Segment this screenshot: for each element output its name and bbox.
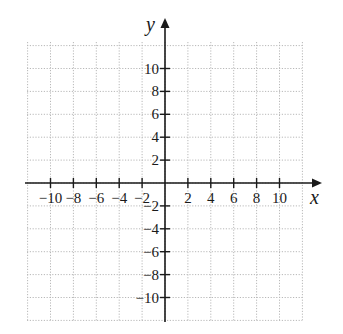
y-axis-arrow-icon bbox=[161, 18, 170, 28]
y-tick-label: −4 bbox=[143, 221, 159, 237]
y-tick-label: −10 bbox=[136, 290, 159, 306]
x-tick-labels: −10−8−6−4−2246810 bbox=[39, 190, 287, 206]
x-tick-label: 4 bbox=[207, 190, 215, 206]
y-tick-label: −8 bbox=[143, 267, 159, 283]
y-tick-label: 2 bbox=[152, 152, 160, 168]
x-tick-label: 10 bbox=[272, 190, 287, 206]
coordinate-plane: −10−8−6−4−2246810 −10−8−6−4−2246810 x y bbox=[0, 0, 343, 334]
y-tick-label: −6 bbox=[143, 244, 159, 260]
axes bbox=[25, 18, 322, 322]
x-tick-label: −8 bbox=[65, 190, 81, 206]
x-tick-label: 6 bbox=[230, 190, 238, 206]
x-tick-label: −6 bbox=[88, 190, 104, 206]
y-tick-label: 4 bbox=[152, 129, 160, 145]
y-tick-label: 8 bbox=[152, 83, 160, 99]
x-tick-label: 8 bbox=[253, 190, 261, 206]
y-tick-label: 6 bbox=[152, 106, 160, 122]
y-tick-label: −2 bbox=[143, 198, 159, 214]
x-axis-label: x bbox=[309, 186, 319, 208]
y-tick-label: 10 bbox=[144, 61, 159, 77]
x-tick-label: −10 bbox=[39, 190, 62, 206]
x-tick-label: 2 bbox=[184, 190, 192, 206]
x-tick-label: −4 bbox=[111, 190, 127, 206]
y-axis-label: y bbox=[144, 13, 155, 36]
